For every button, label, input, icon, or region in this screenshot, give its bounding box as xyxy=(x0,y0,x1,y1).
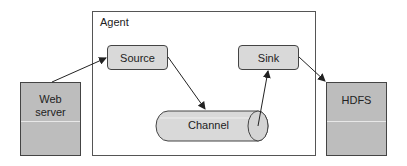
channel-label: Channel xyxy=(188,119,229,131)
diagram-edges xyxy=(0,0,407,166)
